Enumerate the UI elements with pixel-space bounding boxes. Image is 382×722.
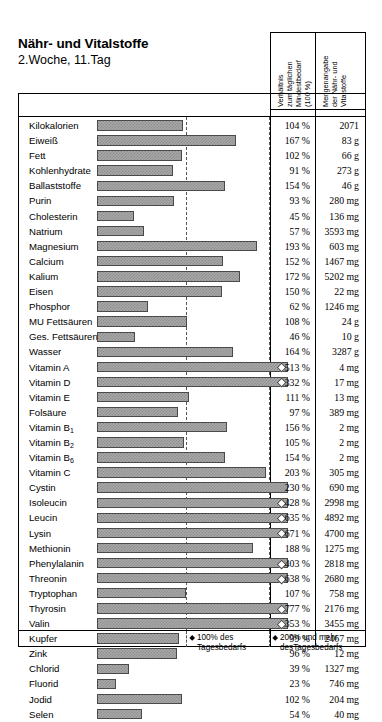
bar-track <box>97 528 288 538</box>
ratio-value: 635 % <box>270 511 310 524</box>
table-row: Leucin635 %4892 mg <box>18 510 366 525</box>
table-row: Magnesium193 %603 mg <box>18 239 366 254</box>
ratio-value: 513 % <box>270 361 310 374</box>
ratio-value: 39 % <box>270 662 310 675</box>
nutrient-label: Tryptophan <box>29 587 107 600</box>
title-block: Nähr- und Vitalstoffe 2.Woche, 11.Tag <box>18 36 258 68</box>
amount-value: 273 g <box>317 164 359 177</box>
amount-value: 1275 mg <box>317 542 359 555</box>
nutrient-label: Vitamin B2 <box>29 436 107 450</box>
nutrient-bar <box>97 286 222 296</box>
amount-value: 3455 mg <box>317 617 359 630</box>
nutrient-label: Vitamin E <box>29 391 107 404</box>
bar-track <box>97 543 288 553</box>
nutrient-bar <box>97 271 240 281</box>
table-row: Calcium152 %1467 mg <box>18 254 366 269</box>
bar-track <box>97 664 288 674</box>
nutrient-label: Vitamin B1 <box>29 421 107 435</box>
nutrient-bar <box>97 513 288 523</box>
nutrient-label: Eisen <box>29 285 107 298</box>
ratio-value: 23 % <box>270 677 310 690</box>
nutrient-bar <box>97 226 144 236</box>
ratio-value: 54 % <box>270 708 310 721</box>
nutrient-label: Ges. Fettsäuren <box>29 330 107 343</box>
amount-value: 603 mg <box>317 240 359 253</box>
ratio-value: 57 % <box>270 225 310 238</box>
table-row: Vitamin B1156 %2 mg <box>18 420 366 435</box>
ratio-value: 102 % <box>270 149 310 162</box>
nutrient-bar <box>97 135 236 145</box>
bar-track <box>97 377 288 387</box>
amount-value: 136 mg <box>317 210 359 223</box>
ratio-value: 172 % <box>270 270 310 283</box>
bar-track <box>97 452 288 462</box>
nutrient-label: Wasser <box>29 345 107 358</box>
nutrient-label: Phosphor <box>29 300 107 313</box>
table-row: Jodid102 %204 mg <box>18 692 366 707</box>
bar-track <box>97 603 288 613</box>
diamond-icon <box>272 635 278 641</box>
nutrient-bar <box>97 467 266 477</box>
nutrient-bar <box>97 181 225 191</box>
nutrient-label: Jodid <box>29 693 107 706</box>
nutrient-label: Valin <box>29 617 107 630</box>
nutrient-bar <box>97 196 174 206</box>
amount-value: 46 g <box>317 179 359 192</box>
diamond-icon <box>189 635 195 641</box>
table-row: Valin353 %3455 mg <box>18 616 366 631</box>
table-row: Vitamin B2105 %2 mg <box>18 435 366 450</box>
amount-value: 2818 mg <box>317 557 359 570</box>
nutrient-label: Phenylalanin <box>29 557 107 570</box>
nutrient-label: Cystin <box>29 481 107 494</box>
ratio-value: 167 % <box>270 134 310 147</box>
table-row: Wasser164 %3287 g <box>18 344 366 359</box>
bar-track <box>97 588 288 598</box>
amount-value: 10 g <box>317 330 359 343</box>
bar-track <box>97 271 288 281</box>
amount-value: 5202 mg <box>317 270 359 283</box>
amount-value: 3593 mg <box>317 225 359 238</box>
nutrient-bar <box>97 437 184 447</box>
nutrient-label: Vitamin A <box>29 361 107 374</box>
nutrient-bar <box>97 618 288 628</box>
nutrient-label: Vitamin C <box>29 466 107 479</box>
bar-track <box>97 362 288 372</box>
legend-100-line2: Tagesbedarfs <box>190 643 272 653</box>
table-row: MU Fettsäuren108 %24 g <box>18 314 366 329</box>
table-row: Phosphor62 %1246 mg <box>18 299 366 314</box>
table-row: Tryptophan107 %758 mg <box>18 586 366 601</box>
nutrient-label: Kilokalorien <box>29 119 107 132</box>
table-row: Eisen150 %22 mg <box>18 284 366 299</box>
amount-value: 1246 mg <box>317 300 359 313</box>
nutrient-bar <box>97 301 148 311</box>
ratio-value: 164 % <box>270 345 310 358</box>
nutrient-label: Threonin <box>29 572 107 585</box>
ratio-value: 108 % <box>270 315 310 328</box>
nutrient-bar <box>97 256 223 266</box>
amount-value: 4 mg <box>317 361 359 374</box>
nutrient-bar <box>97 664 129 674</box>
legend-item-200: 200% und mehr desTagesbedarfs <box>273 633 365 654</box>
nutrient-label: Folsäure <box>29 406 107 419</box>
ratio-value: 93 % <box>270 194 310 207</box>
table-row: Vitamin B6154 %2 mg <box>18 450 366 465</box>
ratio-value: 91 % <box>270 164 310 177</box>
ratio-value: 188 % <box>270 542 310 555</box>
nutrient-bar <box>97 558 288 568</box>
bar-track <box>97 437 288 447</box>
nutrient-label: MU Fettsäuren <box>29 315 107 328</box>
nutrient-label: Kalium <box>29 270 107 283</box>
nutrient-label: Selen <box>29 708 107 721</box>
nutrient-bar <box>97 482 288 492</box>
ratio-value: 193 % <box>270 240 310 253</box>
table-row: Folsäure97 %389 mg <box>18 405 366 420</box>
nutrient-label: Fett <box>29 149 107 162</box>
table-row: Fluorid23 %746 mg <box>18 676 366 691</box>
nutrient-label: Lysin <box>29 527 107 540</box>
bar-track <box>97 513 288 523</box>
bar-track <box>97 332 288 342</box>
ratio-value: 150 % <box>270 285 310 298</box>
amount-value: 2071 <box>317 119 359 132</box>
ratio-value: 107 % <box>270 587 310 600</box>
amount-value: 83 g <box>317 134 359 147</box>
